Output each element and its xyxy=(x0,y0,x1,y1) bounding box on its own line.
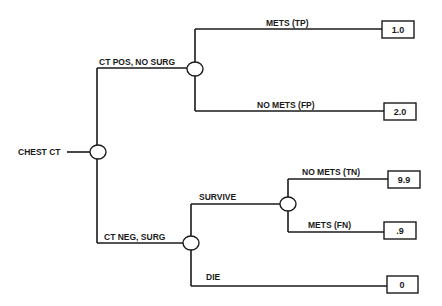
outcome-tp-label: METS (TP) xyxy=(266,18,309,28)
chance-node-ct-neg xyxy=(183,236,199,250)
outcome-tp-value: 1.0 xyxy=(392,25,405,35)
decision-tree-diagram: CHEST CT CT POS, NO SURG METS (TP) 1.0 N… xyxy=(0,0,442,306)
outcome-tn-value: 9.9 xyxy=(398,175,411,185)
chance-node-root xyxy=(90,145,106,159)
outcome-die-value: 0 xyxy=(399,280,404,290)
outcome-tn-label: NO METS (TN) xyxy=(302,167,360,177)
branch-ct-pos-label: CT POS, NO SURG xyxy=(99,57,175,67)
branch-ct-neg-label: CT NEG, SURG xyxy=(104,232,166,242)
branch-survive-label: SURVIVE xyxy=(199,192,236,202)
root-label: CHEST CT xyxy=(18,147,61,157)
chance-node-survive xyxy=(280,197,296,211)
outcome-fp-label: NO METS (FP) xyxy=(257,100,315,110)
outcome-fp-value: 2.0 xyxy=(394,107,407,117)
chance-node-ct-pos xyxy=(187,62,203,76)
outcome-fn-label: METS (FN) xyxy=(308,220,351,230)
outcome-fn-value: .9 xyxy=(396,226,404,236)
branch-die-label: DIE xyxy=(206,272,221,282)
